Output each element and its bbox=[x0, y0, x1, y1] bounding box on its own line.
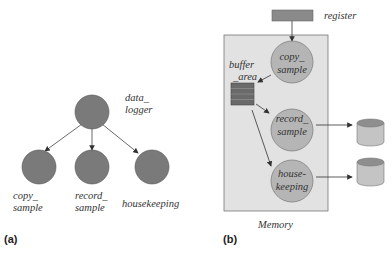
data-logger-label-2: logger bbox=[125, 104, 153, 115]
copy-sample-process-label-2: sample bbox=[277, 64, 307, 75]
data-logger-label-1: data_ bbox=[125, 92, 150, 103]
copy-sample-node bbox=[22, 150, 56, 184]
copy-sample-process-label-1: copy_ bbox=[279, 51, 305, 62]
record-sample-node bbox=[75, 150, 109, 184]
panel-a-tree: data_ logger copy_ sample record_ sample… bbox=[4, 92, 179, 245]
housekeeping-node bbox=[135, 150, 169, 184]
copy-sample-label-2: sample bbox=[13, 202, 43, 213]
record-sample-process-label-2: sample bbox=[277, 126, 307, 137]
housekeeping-process-label-2: keeping bbox=[276, 181, 309, 192]
buffer-area-label-1: buffer bbox=[229, 59, 255, 70]
panel-b-caption: (b) bbox=[223, 233, 237, 245]
buffer-area-block bbox=[231, 83, 254, 105]
panel-b-memory: register copy_ sample record_ sample hou… bbox=[223, 10, 384, 245]
record-sample-label-2: sample bbox=[75, 202, 105, 213]
register-block bbox=[272, 10, 313, 21]
register-label: register bbox=[324, 10, 357, 21]
data-logger-node bbox=[75, 95, 109, 129]
disk-storage-icon-1 bbox=[357, 119, 384, 146]
buffer-area-label-2: _area bbox=[232, 71, 257, 82]
disk-storage-icon-2 bbox=[357, 158, 384, 186]
housekeeping-label: housekeeping bbox=[122, 198, 179, 209]
panel-a-caption: (a) bbox=[4, 233, 18, 245]
copy-sample-process bbox=[271, 41, 313, 83]
edge-root-copy-sample bbox=[45, 124, 82, 151]
record-sample-label-1: record_ bbox=[75, 190, 108, 201]
housekeeping-process-label-1: house- bbox=[278, 168, 306, 179]
diagram-canvas: data_ logger copy_ sample record_ sample… bbox=[0, 0, 392, 257]
record-sample-process-label-1: record_ bbox=[276, 113, 309, 124]
memory-label: Memory bbox=[257, 219, 293, 230]
copy-sample-label-1: copy_ bbox=[13, 190, 39, 201]
edge-root-housekeeping bbox=[102, 124, 138, 153]
